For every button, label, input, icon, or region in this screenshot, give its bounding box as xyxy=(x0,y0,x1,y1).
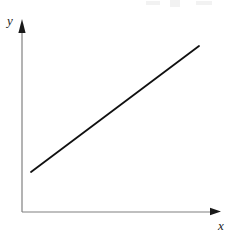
y-axis-arrowhead-icon xyxy=(18,19,25,33)
figure-canvas: y x xyxy=(0,0,236,234)
y-axis-label: y xyxy=(7,14,13,27)
data-line-series xyxy=(31,46,199,172)
line-graph-plot xyxy=(0,0,236,234)
x-axis-arrowhead-icon xyxy=(210,208,221,215)
x-axis-label: x xyxy=(218,219,224,232)
